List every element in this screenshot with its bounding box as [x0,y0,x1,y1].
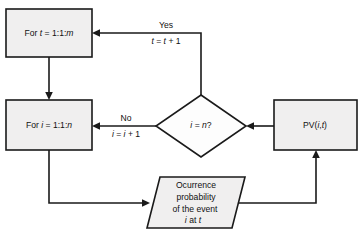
arrowhead-inner-to-output [142,199,150,207]
connector-output-to-pv [238,156,316,203]
arrowhead-output-to-pv [312,150,320,158]
node-output-line3: of the event [173,204,219,214]
connector-yes-branch [98,33,201,95]
arrowhead-yes-branch [92,29,100,37]
edge-label-no: No [121,113,132,123]
edge-label-no-increment: i = i + 1 [112,129,140,139]
node-output-line1: Ocurrence [176,180,216,190]
node-inner-loop-label: For i = 1:1:n [26,120,72,130]
node-output-line4: i at t [185,215,202,225]
flowchart-canvas: For t = 1:1:m For i = 1:1:n i = n? PV(i,… [0,0,364,237]
edge-label-yes-increment: t = t + 1 [151,36,180,46]
connector-inner-to-output [49,150,144,203]
flowchart-diagram: For t = 1:1:m For i = 1:1:n i = n? PV(i,… [0,0,364,237]
node-output-line2: probability [176,192,216,202]
node-outer-loop-label: For t = 1:1:m [25,28,74,38]
arrowhead-outer-to-inner [45,92,53,100]
node-pv-label: PV(i,t) [303,120,327,130]
node-decision-label: i = n? [190,120,212,130]
edge-label-yes: Yes [159,20,173,30]
arrowhead-no-branch [92,122,100,130]
